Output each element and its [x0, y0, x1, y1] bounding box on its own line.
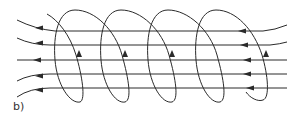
arrow-icon	[243, 58, 251, 63]
arrow-icon	[243, 72, 251, 77]
arrow-icon	[240, 43, 248, 48]
current-arrow-icon	[263, 50, 269, 57]
arrow-icon	[238, 29, 246, 34]
current-arrow-icon	[76, 50, 82, 57]
arrow-icon	[33, 58, 41, 63]
arrow-icon	[35, 26, 43, 31]
current-arrow-icon	[122, 50, 128, 57]
panel-label: b)	[13, 100, 24, 113]
current-arrow-icon	[169, 50, 175, 57]
arrow-icon	[246, 86, 254, 91]
solenoid-diagram	[0, 0, 293, 126]
